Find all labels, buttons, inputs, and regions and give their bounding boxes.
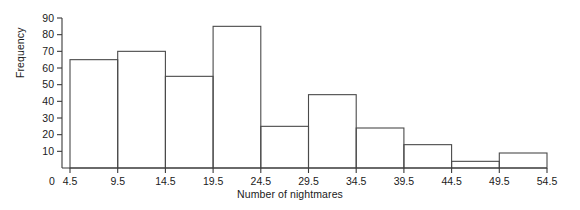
y-tick-label: 90: [42, 12, 54, 24]
x-tick-label: 39.5: [394, 175, 415, 187]
x-tick-label: 9.5: [110, 175, 125, 187]
x-axis-ticks: 04.59.514.519.524.529.534.539.544.549.55…: [49, 168, 557, 187]
x-tick-label: 49.5: [489, 175, 510, 187]
plot-area: 102030405060708090 04.59.514.519.524.529…: [0, 0, 580, 210]
histogram-bar: [70, 60, 118, 168]
histogram-bar: [499, 153, 547, 168]
x-tick-label: 29.5: [298, 175, 319, 187]
histogram-bar: [213, 26, 261, 168]
x-tick-label: 34.5: [346, 175, 367, 187]
histogram-bar: [356, 128, 404, 168]
x-tick-label: 19.5: [203, 175, 224, 187]
histogram-bars: [70, 26, 547, 168]
y-tick-label: 50: [42, 78, 54, 90]
y-tick-label: 40: [42, 95, 54, 107]
x-tick-label: 0: [49, 175, 55, 187]
histogram-bar: [309, 95, 357, 168]
x-tick-label: 24.5: [251, 175, 272, 187]
y-tick-label: 80: [42, 28, 54, 40]
x-tick-label: 44.5: [441, 175, 462, 187]
y-axis-ticks: 102030405060708090: [42, 12, 62, 157]
x-tick-label: 54.5: [537, 175, 558, 187]
histogram-bar: [261, 126, 309, 168]
y-tick-label: 30: [42, 112, 54, 124]
x-tick-label: 4.5: [63, 175, 78, 187]
y-tick-label: 20: [42, 128, 54, 140]
histogram-bar: [404, 145, 452, 168]
x-tick-label: 14.5: [155, 175, 176, 187]
histogram-bar: [118, 51, 166, 168]
y-tick-label: 60: [42, 62, 54, 74]
y-tick-label: 70: [42, 45, 54, 57]
histogram-bar: [452, 161, 500, 168]
histogram-bar: [165, 76, 213, 168]
histogram-chart: Frequency Number of nightmares 102030405…: [0, 0, 580, 210]
y-tick-label: 10: [42, 145, 54, 157]
